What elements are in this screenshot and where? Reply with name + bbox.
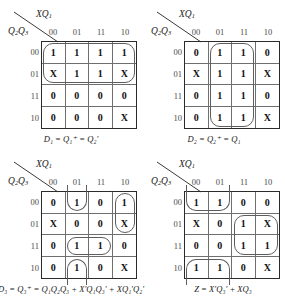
- kmap-cell: 0: [66, 107, 90, 129]
- kmap-cell: 0: [42, 235, 66, 257]
- row-header-1: 01: [160, 63, 182, 85]
- kmap-cell: 0: [185, 85, 209, 107]
- row-header-1: 01: [160, 213, 182, 235]
- kmap-cell: 1: [209, 64, 233, 86]
- column-header-2: 11: [89, 177, 113, 190]
- row-header-3: 10: [160, 257, 182, 279]
- row-headers: 00011110: [17, 41, 39, 129]
- map-d1: XQ1Q2Q300011110000111101111X11X0000000XD…: [0, 0, 142, 152]
- kmap-cell: X: [256, 214, 280, 236]
- column-header-0: 00: [41, 177, 65, 190]
- column-header-2: 11: [89, 27, 113, 40]
- kmap-cell: 0: [256, 192, 280, 214]
- axis-label-columns: XQ1: [36, 159, 52, 169]
- kmap-cell: X: [256, 107, 280, 129]
- row-header-3: 10: [17, 107, 39, 129]
- kmap-cell: 1: [89, 64, 113, 86]
- kmap-cell: 1: [66, 257, 90, 279]
- kmap-cell: 1: [232, 64, 256, 86]
- kmap-grid: 1100X01X0011110X: [184, 191, 280, 279]
- kmap-cell: 0: [89, 214, 113, 236]
- kmap-cell: 1: [232, 214, 256, 236]
- kmap-cell: 0: [185, 235, 209, 257]
- kmap-cell: X: [113, 214, 137, 236]
- row-header-2: 11: [160, 85, 182, 107]
- kmap-cell: 0: [89, 192, 113, 214]
- map-d3: XQ1Q2Q300011110000111100101X00X0110010XD…: [0, 150, 142, 302]
- column-header-2: 11: [232, 177, 256, 190]
- kmap-cell: 0: [232, 257, 256, 279]
- kmap-cell: 1: [66, 235, 90, 257]
- kmap-cell: 1: [232, 42, 256, 64]
- kmap-cell: 0: [232, 192, 256, 214]
- kmap-cell: 1: [42, 42, 66, 64]
- kmap-cell: 0: [66, 85, 90, 107]
- row-header-0: 00: [160, 41, 182, 63]
- kmap-cell: 0: [89, 107, 113, 129]
- kmap-cell: X: [256, 64, 280, 86]
- map-z: XQ1Q2Q300011110000111101100X01X0011110XZ…: [143, 150, 285, 302]
- kmap-figure: XQ1Q2Q300011110000111101111X11X0000000XD…: [0, 0, 285, 305]
- kmap-cell: 1: [209, 192, 233, 214]
- kmap-cell: 0: [42, 192, 66, 214]
- kmap-cell: 0: [256, 42, 280, 64]
- kmap-cell: 1: [66, 64, 90, 86]
- kmap-grid: 1111X11X0000000X: [41, 41, 137, 129]
- row-header-2: 11: [160, 235, 182, 257]
- kmap-cell: 1: [185, 257, 209, 279]
- kmap-cell: 0: [42, 85, 66, 107]
- kmap-grid-wrapper: 1111X11X0000000X: [41, 41, 137, 129]
- axis-label-rows: Q2Q3: [8, 176, 28, 186]
- kmap-cell: X: [185, 214, 209, 236]
- kmap-cell: 1: [209, 257, 233, 279]
- kmap-cell: 0: [209, 235, 233, 257]
- kmap-cell: X: [113, 64, 137, 86]
- column-header-3: 10: [256, 177, 280, 190]
- kmap-caption: Z = X′Q₃′ + XQ₃: [143, 284, 285, 294]
- axis-label-columns: XQ1: [36, 9, 52, 19]
- map-d2: XQ1Q2Q300011110000111100110X11X0110011XD…: [143, 0, 285, 152]
- kmap-cell: 1: [113, 192, 137, 214]
- axis-label-columns: XQ1: [179, 159, 195, 169]
- kmap-cell: 0: [42, 107, 66, 129]
- row-header-3: 10: [17, 257, 39, 279]
- row-header-3: 10: [160, 107, 182, 129]
- kmap-caption: D₁ = Q₁⁺ = Q₂′: [0, 134, 142, 144]
- column-headers: 00011110: [184, 27, 280, 40]
- kmap-cell: 0: [89, 257, 113, 279]
- kmap-cell: 0: [66, 214, 90, 236]
- row-headers: 00011110: [17, 191, 39, 279]
- row-headers: 00011110: [160, 41, 182, 129]
- column-header-1: 01: [208, 27, 232, 40]
- kmap-caption: D₂ = Q₂⁺ = Q₁: [143, 134, 285, 144]
- row-header-1: 01: [17, 63, 39, 85]
- axis-label-rows: Q2Q3: [8, 26, 28, 36]
- axis-label-rows: Q2Q3: [151, 26, 171, 36]
- row-header-2: 11: [17, 235, 39, 257]
- kmap-cell: 1: [209, 42, 233, 64]
- kmap-grid: 0110X11X0110011X: [184, 41, 280, 129]
- column-header-3: 10: [256, 27, 280, 40]
- kmap-cell: 0: [185, 107, 209, 129]
- column-header-1: 01: [208, 177, 232, 190]
- kmap-cell: 0: [89, 85, 113, 107]
- column-header-3: 10: [113, 27, 137, 40]
- column-header-1: 01: [65, 177, 89, 190]
- kmap-cell: 0: [113, 235, 137, 257]
- axis-label-columns: XQ1: [179, 9, 195, 19]
- row-header-1: 01: [17, 213, 39, 235]
- kmap-cell: 0: [113, 85, 137, 107]
- column-header-3: 10: [113, 177, 137, 190]
- column-header-0: 00: [184, 177, 208, 190]
- kmap-grid-wrapper: 1100X01X0011110X: [184, 191, 280, 279]
- column-header-2: 11: [232, 27, 256, 40]
- kmap-cell: 1: [89, 235, 113, 257]
- kmap-cell: 1: [232, 107, 256, 129]
- kmap-cell: 0: [209, 214, 233, 236]
- column-header-0: 00: [41, 27, 65, 40]
- kmap-cell: 1: [256, 235, 280, 257]
- kmap-cell: X: [185, 64, 209, 86]
- row-header-0: 00: [17, 191, 39, 213]
- column-headers: 00011110: [184, 177, 280, 190]
- kmap-grid-wrapper: 0110X11X0110011X: [184, 41, 280, 129]
